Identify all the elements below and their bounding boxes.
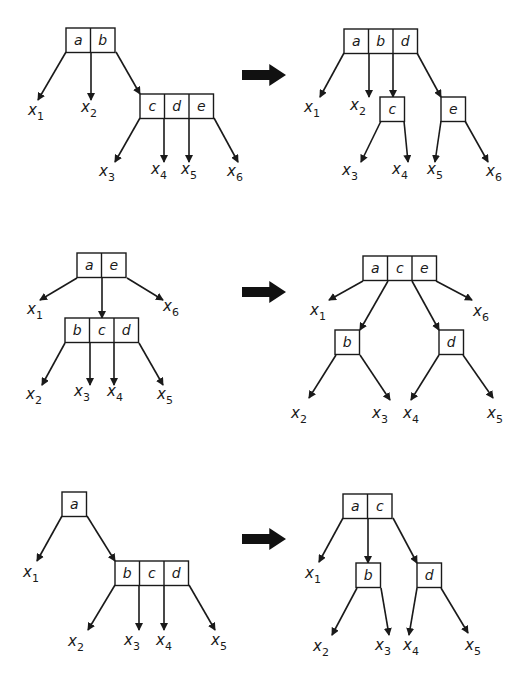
subtree-label-x4: x4 (391, 160, 408, 182)
pointer-arrow-icon (319, 518, 343, 562)
subtree-label-x1: x1 (303, 98, 320, 120)
subtree-label-x5: x5 (156, 385, 173, 407)
pointer-arrow-icon (87, 516, 115, 561)
pointer-arrow-icon (404, 121, 408, 162)
node-key: c (98, 322, 106, 338)
node-key: d (172, 98, 181, 114)
tree-node-e: e (441, 97, 466, 122)
diagram-row-1: abcdex1x2x3x4x5x6abdcex1x2x3x4x5x6 (27, 28, 502, 184)
node-key: b (364, 567, 373, 583)
tree-node-c: c (380, 97, 405, 122)
pointer-arrow-icon (40, 278, 77, 300)
tree-node-ae: ae (77, 253, 126, 278)
node-key: a (371, 260, 380, 276)
tree-after: abdcex1x2x3x4x5x6 (303, 29, 502, 184)
pointer-arrow-icon (332, 588, 357, 635)
tree-transformation-diagram: abcdex1x2x3x4x5x6abdcex1x2x3x4x5x6aebcdx… (0, 0, 528, 676)
node-key: a (85, 257, 94, 273)
node-key: b (343, 334, 352, 350)
subtree-label-x4: x4 (106, 382, 123, 404)
subtree-label-x3: x3 (98, 162, 115, 184)
node-key: b (98, 32, 107, 48)
subtree-label-x5: x5 (210, 631, 227, 653)
subtree-label-x1: x1 (22, 563, 39, 585)
node-key: e (420, 260, 429, 276)
subtree-label-x6: x6 (472, 302, 489, 324)
node-key: e (449, 101, 458, 117)
subtree-label-x4: x4 (150, 160, 167, 182)
tree-node-d: d (439, 330, 464, 355)
pointer-arrow-icon (88, 585, 115, 630)
tree-node-abd: abd (344, 29, 418, 54)
subtree-label-x1: x1 (304, 564, 321, 586)
node-key: d (447, 334, 456, 350)
subtree-label-x3: x3 (341, 161, 358, 183)
tree-node-bcd: bcd (65, 318, 139, 343)
tree-node-bcd: bcd (115, 561, 189, 586)
pointer-arrow-icon (409, 588, 417, 635)
transform-arrow-icon (242, 528, 286, 550)
pointer-arrow-icon (412, 281, 439, 330)
subtree-label-x2: x2 (80, 98, 97, 120)
tree-node-d: d (417, 563, 442, 588)
tree-after: acbdx1x2x3x4x5 (304, 494, 481, 659)
subtree-label-x3: x3 (123, 631, 140, 653)
pointer-arrow-icon (411, 355, 439, 400)
transform-arrow-icon (242, 64, 286, 86)
tree-before: abcdex1x2x3x4x5x6 (27, 28, 243, 184)
tree-node-ace: ace (363, 256, 437, 281)
pointer-arrow-icon (436, 281, 472, 300)
subtree-label-x3: x3 (374, 636, 391, 658)
pointer-arrow-icon (38, 52, 66, 100)
transform-arrow-icon (242, 281, 286, 303)
node-key: c (376, 498, 384, 514)
subtree-label-x1: x1 (309, 301, 326, 323)
diagram-rows: abcdex1x2x3x4x5x6abdcex1x2x3x4x5x6aebcdx… (22, 28, 503, 659)
pointer-arrow-icon (115, 118, 140, 162)
tree-node-cde: cde (140, 94, 214, 119)
pointer-arrow-icon (441, 588, 468, 633)
tree-node-a: a (62, 492, 87, 517)
node-key: b (73, 322, 82, 338)
pointer-arrow-icon (393, 518, 417, 563)
node-key: b (376, 33, 385, 49)
pointer-arrow-icon (127, 278, 163, 300)
tree-after: acebdx1x6x2x3x4x5 (290, 256, 503, 426)
pointer-arrow-icon (435, 121, 441, 162)
node-key: a (70, 496, 79, 512)
pointer-arrow-icon (417, 53, 441, 97)
pointer-arrow-icon (116, 52, 140, 94)
node-key: c (148, 565, 156, 581)
tree-node-b: b (335, 330, 360, 355)
tree-node-ab: ab (66, 28, 115, 53)
subtree-label-x2: x2 (312, 637, 329, 659)
node-key: c (396, 260, 404, 276)
tree-node-ac: ac (343, 494, 392, 519)
pointer-arrow-icon (189, 585, 215, 630)
tree-node-b: b (356, 563, 381, 588)
subtree-label-x5: x5 (464, 636, 481, 658)
pointer-arrow-icon (463, 355, 493, 398)
pointer-arrow-icon (381, 588, 389, 635)
node-key: b (123, 565, 132, 581)
subtree-label-x1: x1 (27, 101, 44, 123)
pointer-arrow-icon (320, 53, 344, 97)
subtree-label-x6: x6 (485, 162, 502, 184)
tree-before: aebcdx1x6x2x3x4x5 (25, 253, 179, 407)
subtree-label-x6: x6 (226, 162, 243, 184)
diagram-row-2: aebcdx1x6x2x3x4x5acebdx1x6x2x3x4x5 (25, 253, 503, 426)
subtree-label-x5: x5 (486, 404, 503, 426)
node-key: c (388, 101, 396, 117)
tree-before: abcdx1x2x3x4x5 (22, 492, 227, 654)
subtree-label-x4: x4 (155, 631, 172, 653)
pointer-arrow-icon (360, 281, 388, 330)
subtree-label-x4: x4 (402, 636, 419, 658)
subtree-label-x2: x2 (25, 385, 42, 407)
pointer-arrow-icon (37, 516, 62, 561)
subtree-label-x3: x3 (371, 404, 388, 426)
subtree-label-x3: x3 (73, 382, 90, 404)
node-key: d (122, 322, 131, 338)
node-key: e (197, 98, 206, 114)
subtree-label-x6: x6 (162, 297, 179, 319)
subtree-label-x2: x2 (67, 632, 84, 654)
